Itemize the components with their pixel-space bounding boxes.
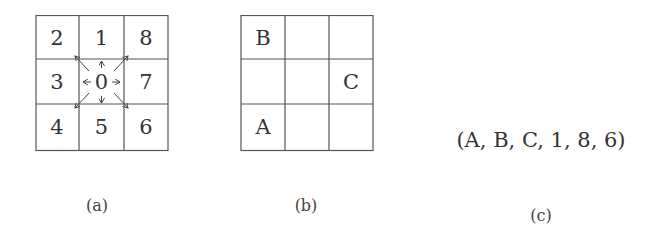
caption-a: (a) — [67, 196, 127, 215]
cell-a-1-0: 3 — [50, 70, 63, 94]
grid-b: B C A — [240, 15, 376, 153]
grid-b-svg: B C A — [240, 15, 376, 153]
cell-a-0-1: 1 — [95, 26, 108, 50]
caption-c: (c) — [511, 206, 571, 225]
cell-a-0-2: 8 — [139, 26, 152, 50]
cell-a-1-2: 7 — [139, 70, 152, 94]
arrow-up-right-icon — [114, 56, 128, 71]
caption-b: (b) — [276, 196, 336, 215]
cell-a-2-1: 5 — [95, 115, 108, 139]
grid-a: 2 1 8 3 0 7 4 5 6 — [35, 15, 171, 153]
cell-a-2-0: 4 — [50, 115, 63, 139]
grid-a-svg: 2 1 8 3 0 7 4 5 6 — [35, 15, 171, 153]
tuple-text: (A, B, C, 1, 8, 6) — [436, 128, 646, 152]
cell-a-1-1: 0 — [95, 70, 108, 94]
arrow-down-left-icon — [75, 93, 89, 108]
cell-a-0-0: 2 — [50, 26, 63, 50]
arrow-up-left-icon — [75, 56, 89, 71]
arrow-down-right-icon — [114, 93, 128, 108]
cell-b-2-0: A — [254, 115, 271, 139]
cell-b-1-2: C — [343, 70, 359, 94]
cell-b-0-0: B — [255, 26, 270, 50]
cell-a-2-2: 6 — [139, 115, 152, 139]
